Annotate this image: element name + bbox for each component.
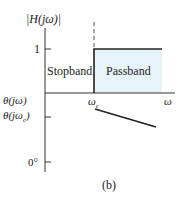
magnitude-label-text: |H(jω)|	[26, 12, 61, 26]
theta-cutoff-text: θ(jω	[3, 109, 23, 121]
magnitude-axis-label: |H(jω)|	[26, 13, 61, 25]
stopband-label: Stopband	[47, 65, 92, 77]
theta-cutoff-close: )	[26, 109, 30, 121]
passband-label: Passband	[106, 65, 151, 77]
zero-deg-label: 0°	[28, 157, 38, 168]
panel-label: (b)	[102, 179, 116, 191]
cutoff-omega: ω	[88, 95, 96, 107]
cutoff-sub: c	[96, 102, 99, 110]
omega-axis-label: ω	[164, 96, 172, 107]
cutoff-frequency-label: ωc	[88, 96, 99, 110]
phase-axis-label: θ(jω)	[3, 95, 27, 106]
tick-one-label: 1	[34, 43, 40, 55]
phase-response	[95, 109, 156, 127]
theta-cutoff-label: θ(jωc)	[3, 110, 30, 124]
